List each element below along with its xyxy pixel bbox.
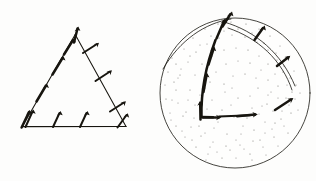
- left-edge-vector-2: [37, 84, 50, 102]
- disk-outline: [160, 18, 310, 168]
- bottom-edge-vector-3: [80, 111, 90, 127]
- bottom-edge-vector-4: [118, 113, 130, 127]
- right-edge-vector-1: [83, 43, 99, 53]
- apex-vector: [74, 26, 80, 42]
- triangle-panel: [22, 26, 130, 127]
- bottom-edge-vector-2: [53, 111, 63, 127]
- triangle-right-edge: [75, 35, 126, 127]
- triangle-outline: [23, 35, 127, 127]
- right-edge-vectors: [83, 43, 126, 112]
- disk-panel: [160, 12, 310, 169]
- left-edge-vector-3: [53, 56, 66, 74]
- figure-canvas: [0, 0, 316, 181]
- bottom-edge-vectors: [26, 110, 130, 128]
